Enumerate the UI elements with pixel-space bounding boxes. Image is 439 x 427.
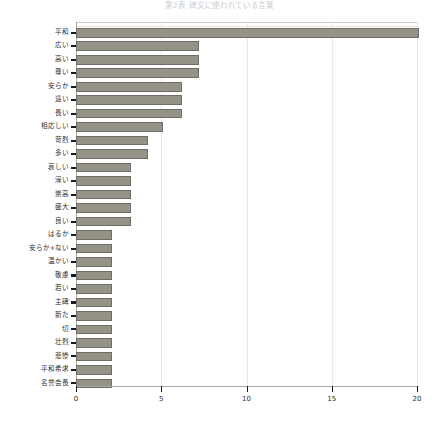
bar-row: 若い: [76, 282, 417, 296]
bar-row: 高い: [76, 53, 417, 67]
x-tick-0: [76, 386, 77, 392]
x-tick-label: 10: [242, 395, 251, 403]
bar: [76, 109, 182, 119]
category-label: 崇高: [55, 189, 69, 200]
category-label: 敬虔: [55, 270, 69, 281]
bar: [76, 284, 112, 294]
category-label: 安らか+ない: [29, 243, 69, 254]
bar: [76, 68, 199, 78]
x-tick-10: [247, 386, 248, 392]
category-label: はるか: [48, 229, 69, 240]
category-label: 遠い: [55, 94, 69, 105]
bar: [76, 217, 131, 227]
x-tick-15: [332, 386, 333, 392]
bar-row: 切: [76, 323, 417, 337]
bar: [76, 82, 182, 92]
bar-row: 苛烈: [76, 134, 417, 148]
bar-row: 新た: [76, 309, 417, 323]
bar: [76, 149, 148, 159]
category-label: 温かい: [48, 256, 69, 267]
bar-row: 安らか+ない: [76, 242, 417, 256]
category-label: 切: [62, 324, 69, 335]
bar: [76, 365, 112, 375]
bar: [76, 203, 131, 213]
x-tick-5: [161, 386, 162, 392]
bar: [76, 230, 112, 240]
category-label: 深い: [55, 175, 69, 186]
category-label: 悲惨: [55, 351, 69, 362]
x-axis: 05101520: [76, 386, 417, 416]
bar: [76, 55, 199, 65]
bar: [76, 352, 112, 362]
bar-row: 主碑: [76, 296, 417, 310]
bar-row: 温かい: [76, 255, 417, 269]
plot-area: 平和広い高い尊い安らか遠い長い相応しい苛烈多い哀しい深い崇高盛大良いはるか安らか…: [76, 22, 417, 386]
bar-row: 尊い: [76, 66, 417, 80]
bar-row: 多い: [76, 147, 417, 161]
bar: [76, 163, 131, 173]
category-label: 長い: [55, 108, 69, 119]
bar-row: 哀しい: [76, 161, 417, 175]
bar: [76, 325, 112, 335]
bar-row: はるか: [76, 228, 417, 242]
bar-row: 相応しい: [76, 120, 417, 134]
bar: [76, 311, 112, 321]
bar: [76, 244, 112, 254]
category-label: 高い: [55, 54, 69, 65]
bar: [76, 41, 199, 51]
chart-title: 第2表 碑文に使われている言葉: [0, 0, 439, 10]
category-label: 広い: [55, 40, 69, 51]
category-label: 新た: [55, 310, 69, 321]
bar: [76, 257, 112, 267]
x-tick-label: 20: [413, 395, 422, 403]
bar-row: 良い: [76, 215, 417, 229]
bar: [76, 298, 112, 308]
bar: [76, 28, 419, 38]
bar-row: 深い: [76, 174, 417, 188]
bar: [76, 95, 182, 105]
category-label: 安らか: [48, 81, 69, 92]
bar: [76, 176, 131, 186]
bar-row: 広い: [76, 39, 417, 53]
bar: [76, 271, 112, 281]
bar-row: 平和: [76, 26, 417, 40]
category-label: 主碑: [55, 297, 69, 308]
category-label: 名誉会長: [41, 378, 69, 389]
bar-row: 安らか: [76, 80, 417, 94]
bar-row: 壮烈: [76, 336, 417, 350]
x-tick-label: 15: [327, 395, 336, 403]
bar-row: 崇高: [76, 188, 417, 202]
category-label: 苛烈: [55, 135, 69, 146]
category-label: 良い: [55, 216, 69, 227]
bar-row: 長い: [76, 107, 417, 121]
bar: [76, 136, 148, 146]
category-label: 平和: [55, 27, 69, 38]
category-label: 壮烈: [55, 337, 69, 348]
bar-row: 敬虔: [76, 269, 417, 283]
category-label: 平和希求: [41, 364, 69, 375]
category-label: 多い: [55, 148, 69, 159]
category-label: 盛大: [55, 202, 69, 213]
bar: [76, 122, 163, 132]
gridline-20: [417, 22, 418, 386]
category-label: 哀しい: [48, 162, 69, 173]
bar-row: 悲惨: [76, 350, 417, 364]
bar: [76, 190, 131, 200]
category-label: 尊い: [55, 67, 69, 78]
category-label: 相応しい: [41, 121, 69, 132]
bar: [76, 338, 112, 348]
bar-row: 盛大: [76, 201, 417, 215]
bar-chart: 第2表 碑文に使われている言葉 平和広い高い尊い安らか遠い長い相応しい苛烈多い哀…: [0, 0, 439, 427]
category-label: 若い: [55, 283, 69, 294]
x-tick-label: 0: [74, 395, 78, 403]
bar-row: 平和希求: [76, 363, 417, 377]
x-tick-label: 5: [159, 395, 163, 403]
x-tick-20: [417, 386, 418, 392]
bar-row: 遠い: [76, 93, 417, 107]
